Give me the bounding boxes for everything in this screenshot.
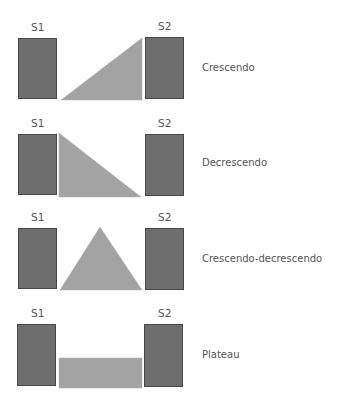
s1-box: [19, 39, 57, 99]
row-decrescendo: S1 S2 Decrescendo: [19, 117, 268, 197]
s2-label: S2: [158, 211, 171, 223]
s1-box: [19, 135, 57, 195]
s2-label: S2: [158, 307, 171, 319]
s2-box: [146, 135, 184, 196]
s2-box: [146, 229, 184, 290]
s2-label: S2: [158, 20, 171, 32]
row-crescendo: S1 S2 Crescendo: [19, 20, 255, 100]
row-plateau: S1 S2 Plateau: [18, 307, 240, 388]
crescendo-shape: [61, 38, 142, 100]
s1-label: S1: [31, 117, 44, 129]
s1-label: S1: [31, 21, 44, 33]
s2-box: [146, 38, 184, 99]
row-label: Crescendo-decrescendo: [202, 253, 322, 264]
s1-label: S1: [31, 211, 44, 223]
row-label: Plateau: [202, 349, 239, 360]
s1-box: [18, 325, 56, 386]
decrescendo-shape: [59, 133, 141, 197]
row-crescendo-decrescendo: S1 S2 Crescendo-decrescendo: [19, 211, 323, 290]
plateau-shape: [59, 358, 142, 388]
s1-label: S1: [31, 307, 44, 319]
s2-label: S2: [158, 117, 171, 129]
row-label: Decrescendo: [202, 157, 267, 168]
row-label: Crescendo: [202, 62, 255, 73]
murmur-shapes-diagram: S1 S2 Crescendo S1 S2 Decrescendo S1 S2 …: [0, 0, 337, 401]
crescendo-decrescendo-shape: [60, 227, 142, 290]
s2-box: [145, 325, 183, 387]
s1-box: [19, 229, 57, 289]
